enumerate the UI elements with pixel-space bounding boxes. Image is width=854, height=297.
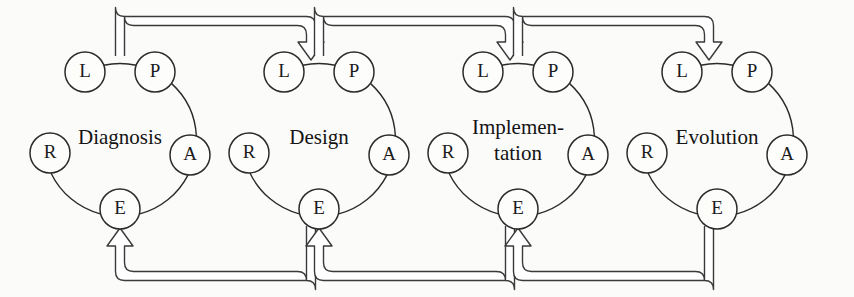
node-a[interactable]: A	[170, 135, 210, 175]
node-label: L	[477, 60, 489, 81]
node-r[interactable]: R	[229, 133, 269, 173]
node-a[interactable]: A	[568, 135, 608, 175]
node-label: E	[114, 197, 126, 218]
cycle-evolution: EvolutionLPAER	[627, 52, 807, 229]
forward-connector-group	[116, 8, 723, 61]
node-label: L	[278, 60, 290, 81]
node-r[interactable]: R	[627, 133, 667, 173]
node-label: P	[747, 60, 758, 81]
node-label: E	[711, 197, 723, 218]
node-r[interactable]: R	[30, 133, 70, 173]
feedback-evolution-to-implementation	[505, 226, 714, 290]
node-p[interactable]: P	[334, 52, 374, 92]
node-a[interactable]: A	[369, 135, 409, 175]
node-label: R	[641, 141, 654, 162]
node-label: A	[382, 143, 396, 164]
node-label: R	[442, 141, 455, 162]
node-label: E	[512, 197, 524, 218]
cycle-implementation: Implemen-tationLPAER	[428, 52, 608, 229]
node-p[interactable]: P	[135, 52, 175, 92]
node-label: P	[150, 60, 161, 81]
node-e[interactable]: E	[697, 189, 737, 229]
phase-label: Evolution	[676, 125, 759, 149]
forward-design-to-implementation	[315, 8, 524, 61]
cycle-design: DesignLPAER	[229, 52, 409, 229]
node-label: A	[780, 143, 794, 164]
node-p[interactable]: P	[732, 52, 772, 92]
node-label: L	[676, 60, 688, 81]
phase-label: tation	[494, 141, 542, 165]
node-label: R	[243, 141, 256, 162]
feedback-connector-group	[107, 226, 714, 290]
node-r[interactable]: R	[428, 133, 468, 173]
node-label: P	[548, 60, 559, 81]
node-l[interactable]: L	[65, 52, 105, 92]
node-e[interactable]: E	[299, 189, 339, 229]
forward-diagnosis-to-design	[116, 8, 325, 61]
node-e[interactable]: E	[498, 189, 538, 229]
forward-implementation-to-evolution	[514, 8, 723, 61]
feedback-design-to-diagnosis	[107, 226, 316, 290]
node-l[interactable]: L	[264, 52, 304, 92]
node-a[interactable]: A	[767, 135, 807, 175]
cycles-group: DiagnosisLPAERDesignLPAERImplemen-tation…	[30, 52, 807, 229]
node-label: R	[44, 141, 57, 162]
node-label: E	[313, 197, 325, 218]
node-p[interactable]: P	[533, 52, 573, 92]
cycle-diagnosis: DiagnosisLPAER	[30, 52, 210, 229]
diagram-canvas: DiagnosisLPAERDesignLPAERImplemen-tation…	[0, 0, 854, 297]
lifecycle-diagram: DiagnosisLPAERDesignLPAERImplemen-tation…	[0, 0, 854, 297]
node-label: A	[183, 143, 197, 164]
node-e[interactable]: E	[100, 189, 140, 229]
feedback-implementation-to-design	[306, 226, 515, 290]
phase-label: Design	[289, 125, 349, 149]
phase-label: Diagnosis	[78, 125, 162, 149]
node-l[interactable]: L	[662, 52, 702, 92]
node-label: P	[349, 60, 360, 81]
node-label: A	[581, 143, 595, 164]
phase-label: Implemen-	[472, 115, 564, 139]
node-label: L	[79, 60, 91, 81]
node-l[interactable]: L	[463, 52, 503, 92]
